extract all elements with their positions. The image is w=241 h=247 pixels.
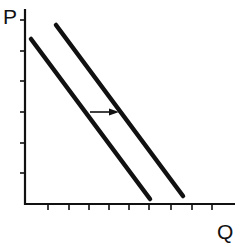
y-axis-label: P bbox=[3, 6, 17, 27]
original-curve bbox=[31, 39, 150, 199]
shifted-curve bbox=[56, 25, 183, 196]
diagram-canvas bbox=[0, 0, 241, 247]
x-axis-label: Q bbox=[217, 221, 233, 242]
